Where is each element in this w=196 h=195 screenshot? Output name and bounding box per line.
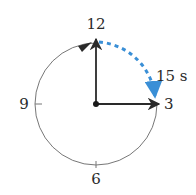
label-3: 3	[164, 95, 174, 113]
label-9: 9	[19, 95, 29, 113]
elapsed-label: 15 s	[156, 67, 188, 85]
clock-diagram: 12 3 6 9 15 s	[0, 0, 196, 195]
center-pivot	[93, 101, 99, 107]
elapsed-arc	[99, 42, 155, 97]
label-6: 6	[91, 170, 101, 188]
label-12: 12	[86, 15, 105, 33]
